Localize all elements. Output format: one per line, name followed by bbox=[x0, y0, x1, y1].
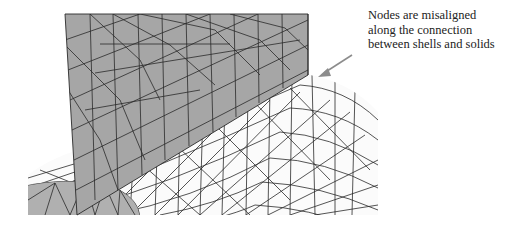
pointer-arrow bbox=[318, 55, 352, 77]
annotation-line-2: along the connection bbox=[368, 23, 495, 38]
annotation-line-3: between shells and solids bbox=[368, 37, 495, 52]
annotation-line-1: Nodes are misaligned bbox=[368, 8, 495, 23]
annotation-text: Nodes are misaligned along the connectio… bbox=[368, 8, 495, 52]
